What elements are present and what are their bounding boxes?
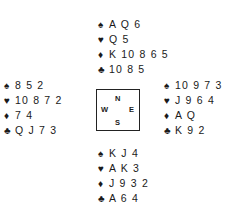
diamond-icon: ♦ bbox=[164, 108, 175, 123]
east-hearts: ♥J 9 6 4 bbox=[164, 93, 223, 108]
west-clubs-cards: Q J 7 3 bbox=[15, 124, 57, 136]
east-diamonds-cards: A Q bbox=[175, 109, 196, 121]
north-diamonds-cards: K 10 8 6 5 bbox=[109, 48, 169, 60]
east-hearts-cards: J 9 6 4 bbox=[175, 94, 215, 106]
west-diamonds-cards: 7 4 bbox=[15, 109, 33, 121]
club-icon: ♣ bbox=[98, 191, 109, 206]
north-spades-cards: A Q 6 bbox=[109, 18, 141, 30]
south-clubs: ♣A 6 4 bbox=[98, 191, 149, 206]
east-diamonds: ♦A Q bbox=[164, 108, 223, 123]
compass-box: N W E S bbox=[96, 89, 140, 131]
heart-icon: ♥ bbox=[4, 93, 15, 108]
spade-icon: ♠ bbox=[98, 146, 109, 161]
heart-icon: ♥ bbox=[98, 161, 109, 176]
compass-east: E bbox=[129, 105, 134, 114]
east-clubs-cards: K 9 2 bbox=[175, 124, 206, 136]
south-diamonds: ♦J 9 3 2 bbox=[98, 176, 149, 191]
club-icon: ♣ bbox=[98, 62, 109, 77]
diamond-icon: ♦ bbox=[98, 47, 109, 62]
north-hearts: ♥Q 5 bbox=[98, 32, 169, 47]
spade-icon: ♠ bbox=[164, 78, 175, 93]
west-hand: ♠8 5 2 ♥10 8 7 2 ♦7 4 ♣Q J 7 3 bbox=[4, 78, 63, 138]
south-clubs-cards: A 6 4 bbox=[109, 192, 139, 204]
diamond-icon: ♦ bbox=[98, 176, 109, 191]
west-hearts: ♥10 8 7 2 bbox=[4, 93, 63, 108]
south-hand: ♠K J 4 ♥A K 3 ♦J 9 3 2 ♣A 6 4 bbox=[98, 146, 149, 206]
south-diamonds-cards: J 9 3 2 bbox=[109, 177, 149, 189]
spade-icon: ♠ bbox=[98, 17, 109, 32]
north-spades: ♠A Q 6 bbox=[98, 17, 169, 32]
compass-south: S bbox=[115, 118, 120, 127]
west-diamonds: ♦7 4 bbox=[4, 108, 63, 123]
south-hearts: ♥A K 3 bbox=[98, 161, 149, 176]
heart-icon: ♥ bbox=[164, 93, 175, 108]
north-hand: ♠A Q 6 ♥Q 5 ♦K 10 8 6 5 ♣10 8 5 bbox=[98, 17, 169, 77]
west-hearts-cards: 10 8 7 2 bbox=[15, 94, 63, 106]
south-hearts-cards: A K 3 bbox=[109, 162, 140, 174]
east-clubs: ♣K 9 2 bbox=[164, 123, 223, 138]
west-spades-cards: 8 5 2 bbox=[15, 79, 44, 91]
compass-west: W bbox=[101, 105, 108, 114]
east-spades: ♠10 9 7 3 bbox=[164, 78, 223, 93]
heart-icon: ♥ bbox=[98, 32, 109, 47]
east-spades-cards: 10 9 7 3 bbox=[175, 79, 223, 91]
south-spades: ♠K J 4 bbox=[98, 146, 149, 161]
west-spades: ♠8 5 2 bbox=[4, 78, 63, 93]
east-hand: ♠10 9 7 3 ♥J 9 6 4 ♦A Q ♣K 9 2 bbox=[164, 78, 223, 138]
club-icon: ♣ bbox=[164, 123, 175, 138]
north-hearts-cards: Q 5 bbox=[109, 33, 130, 45]
diamond-icon: ♦ bbox=[4, 108, 15, 123]
west-clubs: ♣Q J 7 3 bbox=[4, 123, 63, 138]
north-clubs: ♣10 8 5 bbox=[98, 62, 169, 77]
club-icon: ♣ bbox=[4, 123, 15, 138]
south-spades-cards: K J 4 bbox=[109, 147, 139, 159]
north-diamonds: ♦K 10 8 6 5 bbox=[98, 47, 169, 62]
spade-icon: ♠ bbox=[4, 78, 15, 93]
compass-north: N bbox=[115, 94, 120, 103]
north-clubs-cards: 10 8 5 bbox=[109, 63, 145, 75]
